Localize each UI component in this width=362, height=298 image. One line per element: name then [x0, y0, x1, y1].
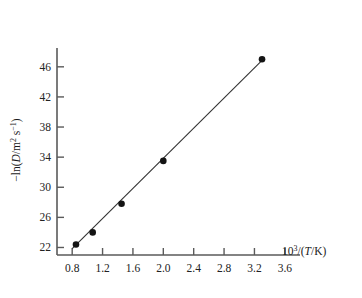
x-tick-label: 1.6 — [126, 262, 141, 274]
svg-text:−ln(D/m2 s−1): −ln(D/m2 s−1) — [9, 118, 23, 182]
y-axis-tick-labels: 22263034384246 — [40, 61, 52, 254]
svg-text:103/(T/K): 103/(T/K) — [282, 244, 326, 258]
y-tick-label: 34 — [40, 151, 52, 163]
x-axis: 0.81.21.62.02.42.83.23.6 — [57, 248, 300, 274]
data-point — [89, 229, 96, 236]
chart-canvas: 22263034384246 0.81.21.62.02.42.83.23.6 … — [0, 0, 362, 298]
best-fit-line — [72, 59, 263, 249]
x-tick-label: 3.6 — [278, 262, 293, 274]
x-axis-tick-labels: 0.81.21.62.02.42.83.23.6 — [65, 262, 292, 274]
y-title-prefix: −ln( — [10, 162, 23, 181]
y-title-slash: /m — [10, 142, 22, 154]
y-axis-title: −ln(D/m2 s−1) — [9, 118, 23, 182]
x-axis-ticks — [72, 248, 285, 255]
x-tick-label: 2.8 — [217, 262, 232, 274]
x-tick-label: 2.4 — [187, 262, 202, 274]
x-axis-title: 103/(T/K) — [282, 244, 326, 258]
y-tick-label: 26 — [40, 211, 52, 223]
x-title-ten: 10 — [282, 245, 294, 257]
x-title-k: /K) — [311, 245, 327, 258]
y-tick-label: 22 — [40, 241, 52, 253]
data-point — [73, 241, 80, 248]
data-point — [259, 56, 266, 63]
data-point — [118, 201, 125, 208]
y-tick-label: 42 — [40, 91, 52, 103]
x-tick-label: 0.8 — [65, 262, 80, 274]
data-point — [160, 158, 167, 165]
y-axis-ticks — [57, 67, 64, 248]
arrhenius-plot: 22263034384246 0.81.21.62.02.42.83.23.6 … — [0, 0, 362, 298]
x-tick-label: 1.2 — [95, 262, 110, 274]
y-tick-label: 46 — [40, 61, 52, 73]
y-axis: 22263034384246 — [40, 48, 65, 255]
x-tick-label: 2.0 — [156, 262, 171, 274]
y-tick-label: 38 — [40, 121, 52, 133]
y-title-close: ) — [10, 118, 23, 122]
y-title-supm1: −1 — [9, 122, 18, 131]
data-series — [72, 56, 265, 249]
y-tick-label: 30 — [40, 181, 52, 193]
x-tick-label: 3.2 — [247, 262, 262, 274]
